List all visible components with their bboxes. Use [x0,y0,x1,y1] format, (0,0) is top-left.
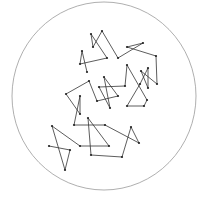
walk-point [64,169,66,171]
walk-point [73,124,75,126]
walk-point [104,124,106,126]
walk-point [79,145,81,147]
walk-point [92,46,94,48]
walk-point [90,154,92,156]
walk-point [139,83,141,85]
walk-point [147,87,149,89]
walk-point [124,85,126,87]
walk-point [48,145,50,147]
walk-point [117,57,119,59]
walk-point [146,99,148,101]
walk-point [96,100,98,102]
walk-point [86,71,88,73]
walk-point [142,42,144,44]
walk-point [81,50,83,52]
walk-point [109,107,111,109]
walk-point [130,126,132,128]
walk-point [106,57,108,59]
walk-point [87,117,89,119]
walk-point [79,113,81,115]
walk-point [88,80,90,82]
walk-point [90,33,92,35]
walk-point [117,95,119,97]
walk-point [51,125,53,127]
walk-point [138,142,140,144]
walk-point [121,156,123,158]
walk-point [147,67,149,69]
walk-path [49,31,157,170]
walk-point [126,64,128,66]
walk-point [98,86,100,88]
random-walk-canvas [0,0,201,197]
walk-point [155,55,157,57]
walk-points [48,30,158,171]
walk-point [143,105,145,107]
walk-point [126,105,128,107]
walk-point [79,63,81,65]
walk-point [156,83,158,85]
walk-point [65,93,67,95]
walk-point [140,70,142,72]
walk-point [108,145,110,147]
walk-point [79,95,81,97]
walk-point [126,46,128,48]
walk-point [103,76,105,78]
walk-point [101,30,103,32]
walk-point [69,149,71,151]
